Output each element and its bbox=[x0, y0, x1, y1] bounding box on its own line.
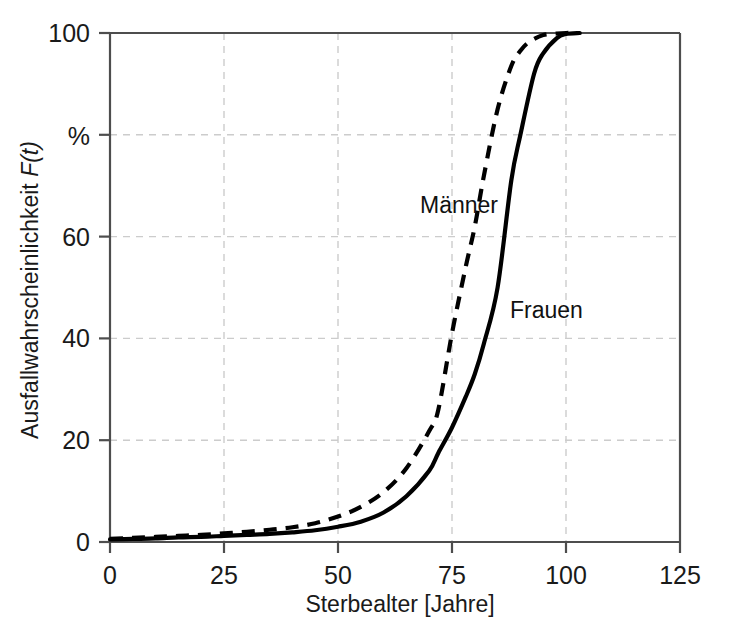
grid-lines bbox=[110, 33, 680, 542]
x-tick-label-75: 75 bbox=[438, 561, 466, 589]
x-tick-label-100: 100 bbox=[545, 561, 587, 589]
y-tick-label-100: 100 bbox=[48, 19, 90, 47]
x-tick-label-25: 25 bbox=[210, 561, 238, 589]
y-tick-label-20: 20 bbox=[62, 426, 90, 454]
y-axis-title-main: Ausfallwahrscheinlichkeit bbox=[17, 177, 43, 439]
y-tick-label-40: 40 bbox=[62, 324, 90, 352]
x-tick-label-50: 50 bbox=[324, 561, 352, 589]
y-axis-title-symbol: F(t) bbox=[17, 141, 43, 177]
y-tick-label-60: 60 bbox=[62, 223, 90, 251]
series-line-maenner bbox=[110, 33, 580, 539]
y-axis-title: Ausfallwahrscheinlichkeit F(t) bbox=[17, 141, 43, 439]
series-line-frauen bbox=[110, 33, 580, 539]
x-axis-title: Sterbealter [Jahre] bbox=[305, 591, 494, 617]
x-tick-label-125: 125 bbox=[659, 561, 701, 589]
y-tick-label-80-percent: % bbox=[68, 122, 90, 150]
y-axis-ticks bbox=[99, 33, 110, 542]
chart-figure: 0 20 40 60 % 100 0 25 50 75 100 125 Ster… bbox=[0, 0, 748, 618]
series-annotation-frauen: Frauen bbox=[510, 297, 583, 323]
x-tick-label-0: 0 bbox=[103, 561, 117, 589]
x-axis-ticks bbox=[110, 542, 680, 553]
mortality-cdf-chart: 0 20 40 60 % 100 0 25 50 75 100 125 Ster… bbox=[0, 0, 748, 618]
plot-frame bbox=[110, 33, 680, 542]
y-tick-label-0: 0 bbox=[76, 528, 90, 556]
series-annotation-maenner: Männer bbox=[420, 192, 498, 218]
y-tick-labels: 0 20 40 60 % 100 bbox=[48, 19, 90, 556]
x-tick-labels: 0 25 50 75 100 125 bbox=[103, 561, 701, 589]
